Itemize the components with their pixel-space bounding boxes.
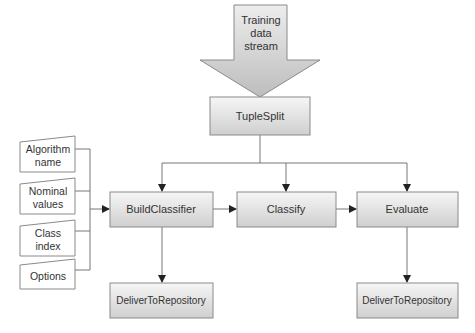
svg-text:TupleSplit: TupleSplit [236, 110, 285, 122]
node-deliver-to-repository-right: DeliverToRepository [357, 283, 458, 318]
svg-text:DeliverToRepository: DeliverToRepository [116, 295, 205, 306]
node-build-classifier: BuildClassifier [110, 192, 213, 227]
input-nominal-values: Nominal values [20, 178, 75, 214]
input-options: Options [20, 259, 75, 289]
svg-text:index: index [35, 240, 61, 252]
svg-text:Algorithm: Algorithm [26, 143, 71, 155]
svg-text:name: name [35, 156, 61, 168]
arrow-label-line-2: data [250, 27, 272, 39]
node-deliver-to-repository-left: DeliverToRepository [110, 283, 213, 318]
node-evaluate: Evaluate [357, 192, 458, 227]
svg-text:Classify: Classify [267, 203, 306, 215]
flow-diagram: Training data stream TupleSplit BuildCla… [0, 0, 475, 333]
svg-text:values: values [33, 198, 63, 210]
svg-text:Evaluate: Evaluate [386, 203, 429, 215]
svg-text:Nominal: Nominal [29, 185, 68, 197]
arrow-label-line-1: Training [241, 14, 280, 26]
svg-text:BuildClassifier: BuildClassifier [126, 203, 196, 215]
svg-text:Options: Options [30, 270, 66, 282]
node-classify: Classify [237, 192, 336, 227]
input-class-index: Class index [20, 220, 75, 256]
input-algorithm-name: Algorithm name [20, 136, 75, 172]
node-tuple-split: TupleSplit [210, 97, 310, 135]
svg-text:Class: Class [35, 227, 61, 239]
training-data-stream-arrow: Training data stream [200, 5, 320, 97]
svg-text:DeliverToRepository: DeliverToRepository [362, 295, 451, 306]
arrow-label-line-3: stream [244, 40, 278, 52]
